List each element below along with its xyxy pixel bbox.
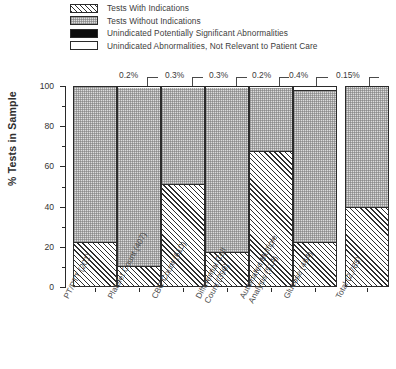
y-tick-60 — [60, 166, 65, 167]
y-tick-80 — [60, 126, 65, 127]
x-tick — [183, 288, 184, 292]
x-tick — [139, 288, 140, 292]
legend-swatch-dots-icon — [70, 16, 98, 25]
annotation-label: 0.2% — [252, 70, 271, 80]
y-tick-100 — [60, 86, 65, 87]
legend-item: Unindicated Abnormalities, Not Relevant … — [70, 40, 396, 53]
y-tick-minor-50 — [62, 187, 65, 188]
bar-segment-without-indications — [162, 88, 204, 184]
x-tick — [227, 288, 228, 292]
bar-platelet-count[interactable] — [117, 86, 161, 287]
annotation-leader-line — [147, 77, 158, 86]
legend-item: Tests With Indications — [70, 2, 396, 15]
legend-item: Tests Without Indications — [70, 15, 396, 28]
annotation-leader-line — [192, 77, 203, 86]
bar-segment-without-indications — [74, 86, 116, 242]
x-tick — [367, 288, 368, 292]
legend-swatch-hatch-icon — [70, 4, 98, 13]
annotation-label: 0.15% — [336, 70, 360, 80]
annotation-leader-line — [369, 77, 379, 86]
x-tick — [315, 288, 316, 292]
y-tick-minor-90 — [62, 106, 65, 107]
y-tick-minor-70 — [62, 146, 65, 147]
bar-cbc-count[interactable] — [161, 86, 205, 287]
y-tick-0 — [60, 287, 65, 288]
annotation-leader-line — [236, 77, 247, 86]
legend-swatch-white-icon — [70, 41, 98, 50]
y-axis-title: % Tests in Sample — [6, 91, 18, 186]
legend-item: Unindicated Potentially Significant Abno… — [70, 27, 396, 40]
annotation-leader-line — [316, 77, 328, 86]
legend-item-label: Unindicated Abnormalities, Not Relevant … — [107, 41, 318, 51]
bar-pt-ptt[interactable] — [73, 86, 117, 287]
annotation-label: 0.4% — [289, 70, 308, 80]
y-tick-label: 60 — [28, 161, 54, 171]
y-tick-label: 80 — [28, 121, 54, 131]
y-tick-minor-10 — [62, 267, 65, 268]
y-tick-20 — [60, 247, 65, 248]
y-tick-minor-30 — [62, 227, 65, 228]
annotation-label: 0.3% — [165, 70, 184, 80]
y-tick-label: 20 — [28, 242, 54, 252]
y-tick-label: 100 — [28, 81, 54, 91]
x-tick — [95, 288, 96, 292]
chart-legend: Tests With Indications Tests Without Ind… — [70, 2, 396, 52]
y-tick-label: 0 — [28, 282, 54, 292]
annotation-label: 0.2% — [119, 70, 138, 80]
legend-item-label: Tests Without Indications — [107, 16, 201, 26]
legend-item-label: Unindicated Potentially Significant Abno… — [107, 28, 288, 38]
y-axis-line — [65, 86, 66, 288]
bar-segment-without-indications — [294, 91, 336, 242]
x-tick — [271, 288, 272, 292]
bar-total[interactable] — [345, 86, 389, 287]
legend-item-label: Tests With Indications — [107, 3, 189, 13]
bar-glucose[interactable] — [293, 86, 337, 287]
bar-segment-without-indications — [250, 88, 292, 152]
legend-swatch-black-icon — [70, 29, 98, 38]
bar-segment-without-indications — [206, 88, 248, 252]
annotation-leader-line — [279, 77, 289, 86]
bar-segment-without-indications — [346, 86, 388, 206]
y-tick-label: 40 — [28, 202, 54, 212]
annotation-label: 0.3% — [209, 70, 228, 80]
figure: Tests With Indications Tests Without Ind… — [0, 0, 396, 369]
y-tick-40 — [60, 207, 65, 208]
